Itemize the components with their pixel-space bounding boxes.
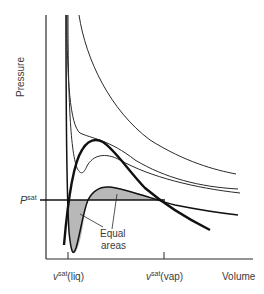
isotherm-1 bbox=[79, 15, 236, 174]
vsat-vap-label: vsat(vap) bbox=[146, 270, 183, 282]
isotherm-4-vdw-loop bbox=[66, 15, 238, 252]
psat-label: Psat bbox=[20, 194, 37, 206]
diagram-canvas: Pressure Psat vsat(liq) vsat(vap) Volume… bbox=[0, 0, 264, 294]
equal-areas-line1: Equal bbox=[100, 228, 126, 239]
isotherm-2 bbox=[67, 15, 238, 189]
isotherm-3 bbox=[68, 15, 240, 193]
y-axis-label: Pressure bbox=[15, 57, 26, 97]
vsat-liq-label: vsat(liq) bbox=[53, 270, 84, 282]
envelope-curve bbox=[64, 140, 210, 245]
pv-isotherm-diagram: Pressure Psat vsat(liq) vsat(vap) Volume… bbox=[0, 0, 264, 294]
x-axis-label: Volume bbox=[222, 271, 256, 282]
equal-areas-line2: areas bbox=[101, 240, 126, 251]
